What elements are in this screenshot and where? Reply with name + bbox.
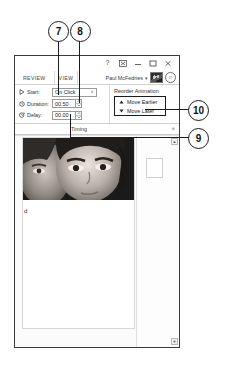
ribbon-group-caption-bar: Timing ˄	[15, 124, 179, 135]
delay-input[interactable]: 00.00	[52, 111, 76, 120]
clock-icon	[18, 100, 26, 108]
duration-input[interactable]: 00.50	[52, 99, 76, 108]
slide-canvas[interactable]: d	[22, 137, 135, 329]
duration-stepper-down-icon[interactable]	[76, 104, 81, 107]
timing-group: Start: On Click ˅ Duration:	[15, 85, 110, 123]
slide-photo[interactable]	[23, 138, 135, 200]
reorder-animation-title: Reorder Animation	[114, 88, 179, 94]
callout-leader-8	[79, 39, 80, 103]
start-label: Start:	[27, 89, 52, 95]
timing-group-caption: Timing	[71, 126, 87, 132]
collapse-ribbon-chevron-icon[interactable]: ˄	[171, 125, 175, 134]
pane-thumbnail[interactable]	[146, 158, 163, 178]
tab-review[interactable]: REVIEW	[19, 71, 50, 85]
scroll-down-button[interactable]: ▼	[171, 338, 178, 345]
callout-9-number: 9	[196, 133, 202, 144]
callout-10-number: 10	[193, 105, 204, 116]
close-icon[interactable]	[160, 57, 175, 70]
callout-7: 7	[48, 21, 69, 42]
move-later-button[interactable]: Move Later	[115, 106, 165, 115]
callout-7-number: 7	[56, 26, 62, 37]
move-earlier-up-icon	[118, 100, 125, 104]
account-caret-icon[interactable]: ▾	[145, 75, 148, 81]
help-icon[interactable]: ?	[100, 57, 115, 70]
callout-leader-7	[58, 39, 59, 95]
delay-row: Delay: 00.00	[18, 110, 109, 120]
document-area: d ▲ ▼	[15, 135, 179, 347]
delay-stepper-down-icon[interactable]	[76, 116, 81, 119]
delay-clock-icon	[18, 111, 26, 119]
callout-leader-9-vert	[70, 114, 71, 138]
start-row: Start: On Click ˅	[18, 87, 109, 97]
duration-value: 00.50	[53, 101, 75, 107]
minimize-icon[interactable]	[130, 57, 145, 70]
right-pane: ▲ ▼	[136, 136, 179, 347]
avatar[interactable]	[150, 72, 163, 83]
ribbon-body: Start: On Click ˅ Duration:	[15, 85, 179, 124]
title-bar: ?	[15, 56, 179, 71]
move-later-down-icon	[118, 109, 125, 113]
slide-text-fragment[interactable]: d	[24, 208, 27, 214]
account-area: Paul McFedries ▾ ☺	[106, 72, 179, 83]
account-name[interactable]: Paul McFedries	[106, 75, 143, 81]
scroll-up-button[interactable]: ▲	[171, 138, 178, 145]
screenshot-stage: 7 8 10 9 ?	[0, 0, 232, 370]
powerpoint-window: ?	[14, 55, 180, 348]
delay-value: 00.00	[53, 112, 75, 118]
duration-row: Duration: 00.50	[18, 99, 109, 109]
callout-8: 8	[70, 21, 91, 42]
move-earlier-label: Move Earlier	[127, 99, 157, 105]
move-earlier-button[interactable]: Move Earlier	[115, 97, 165, 106]
callout-9: 9	[188, 128, 209, 149]
duration-label: Duration:	[27, 101, 52, 107]
callout-10: 10	[188, 100, 209, 121]
ribbon-display-options-icon[interactable]	[115, 57, 130, 70]
callout-leader-9-horz	[70, 137, 189, 138]
reorder-animation-box: Move Earlier Move Later	[114, 96, 166, 116]
play-icon	[18, 88, 26, 96]
start-chevron-down-icon[interactable]: ˅	[88, 89, 96, 96]
callout-8-number: 8	[77, 26, 83, 37]
delay-label: Delay:	[27, 112, 52, 118]
share-icon[interactable]: ☺	[165, 72, 176, 83]
restore-icon[interactable]	[145, 57, 160, 70]
delay-stepper[interactable]	[76, 111, 82, 120]
reorder-animation-group: Reorder Animation Move Earlier Move Late…	[110, 85, 179, 123]
callout-leader-10	[145, 109, 189, 110]
ribbon-tab-strip: REVIEW VIEW Paul McFedries ▾ ☺	[15, 71, 179, 85]
